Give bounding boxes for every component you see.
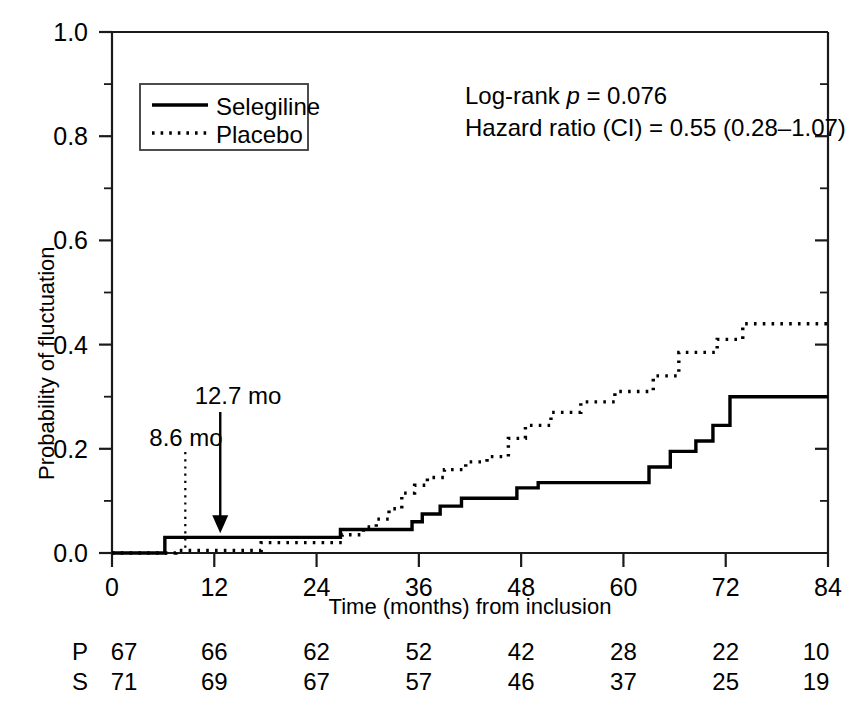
x-tick-label: 72 <box>696 573 756 602</box>
x-tick-label: 48 <box>491 573 551 602</box>
stat-logrank-suffix: = 0.076 <box>580 82 667 109</box>
legend-label-placebo: Placebo <box>216 121 303 149</box>
x-tick-label: 0 <box>82 573 142 602</box>
x-tick-label: 36 <box>389 573 449 602</box>
risk-row-label-placebo: P <box>72 638 88 666</box>
x-tick-label: 24 <box>287 573 347 602</box>
x-tick-label: 60 <box>593 573 653 602</box>
risk-table-cell: 69 <box>186 668 242 696</box>
y-tick-label: 0.6 <box>16 226 88 255</box>
risk-table-cell: 37 <box>595 668 651 696</box>
risk-table-cell: 19 <box>788 668 844 696</box>
legend-label-selegiline: Selegiline <box>216 93 320 121</box>
stat-logrank: Log-rank p = 0.076 <box>465 82 667 110</box>
y-tick-label: 1.0 <box>16 18 88 47</box>
risk-table-cell: 67 <box>289 668 345 696</box>
stat-logrank-italic: p <box>566 82 579 109</box>
y-tick-label: 0.8 <box>16 122 88 151</box>
x-tick-label: 84 <box>798 573 858 602</box>
risk-table-cell: 42 <box>493 638 549 666</box>
risk-table-cell: 46 <box>493 668 549 696</box>
risk-table-cell: 52 <box>391 638 447 666</box>
kaplan-meier-figure: Probability of fluctuation Time (months)… <box>0 0 867 711</box>
x-tick-label: 12 <box>184 573 244 602</box>
annotation-label-placebo: 8.6 mo <box>116 424 256 452</box>
risk-table-cell: 10 <box>788 638 844 666</box>
y-axis-ticks <box>99 32 112 553</box>
x-axis-ticks <box>112 553 828 567</box>
y-tick-label: 0.0 <box>16 539 88 568</box>
risk-table-cell: 25 <box>698 668 754 696</box>
y-tick-label: 0.2 <box>16 434 88 463</box>
risk-table-cell: 28 <box>595 638 651 666</box>
risk-table-cell: 71 <box>96 668 152 696</box>
risk-table-cell: 66 <box>186 638 242 666</box>
annotation-label-selegiline: 12.7 mo <box>168 382 308 410</box>
risk-table-cell: 22 <box>698 638 754 666</box>
risk-row-label-selegiline: S <box>72 668 88 696</box>
stat-hazard-ratio: Hazard ratio (CI) = 0.55 (0.28–1.07) <box>465 114 846 142</box>
risk-table-cell: 67 <box>96 638 152 666</box>
selegiline-arrowhead-icon <box>212 515 228 533</box>
y-tick-label: 0.4 <box>16 330 88 359</box>
y-axis-ticks-right <box>815 84 828 501</box>
risk-table-cell: 57 <box>391 668 447 696</box>
risk-table-cell: 62 <box>289 638 345 666</box>
stat-logrank-prefix: Log-rank <box>465 82 566 109</box>
